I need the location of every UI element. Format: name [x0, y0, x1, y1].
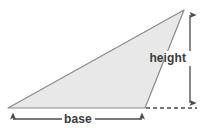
height-label: height: [149, 51, 186, 65]
diagram-canvas: height base: [0, 0, 209, 130]
base-label: base: [64, 112, 92, 126]
triangle-diagram: height base: [0, 0, 209, 130]
